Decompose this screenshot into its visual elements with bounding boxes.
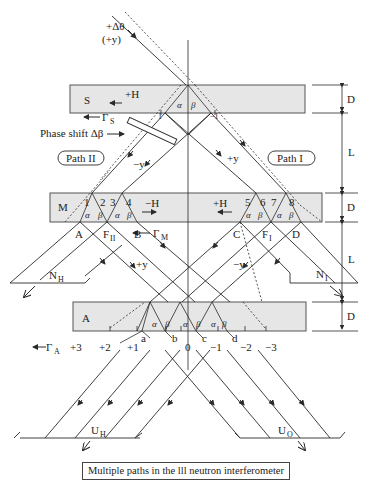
uo-sub: O — [287, 430, 293, 439]
beam-label-f2-sub: II — [110, 234, 116, 243]
minus-y-upper: −y — [133, 158, 145, 170]
order-plus-1: +1 — [127, 341, 139, 353]
ni-label: N — [316, 268, 324, 280]
beam-label-d: D — [292, 228, 300, 240]
order-0: 0 — [185, 341, 191, 353]
dim-l-upper: L — [348, 146, 355, 158]
path-2-label: Path II — [66, 152, 96, 164]
dim-l-lower: L — [348, 253, 355, 265]
beam-label-b: B — [134, 228, 141, 240]
dim-d-s: D — [347, 93, 355, 105]
path-1-label: Path I — [277, 152, 303, 164]
crystal-a — [73, 302, 306, 331]
gamma-a-sub: A — [54, 347, 60, 356]
beam-label-f2: F — [103, 228, 109, 240]
a-alpha-1: α — [152, 319, 157, 329]
mirror-point-5: 5 — [245, 196, 251, 208]
ni-sub: I — [325, 274, 328, 283]
m-alpha-2: α — [115, 210, 120, 220]
order-minus-3: −3 — [265, 341, 277, 353]
plus-y-lower: +y — [136, 258, 148, 270]
s-marker-right: −1 — [210, 112, 219, 121]
interferometer-diagram: +Δθ (+y) S +H Γ S α β 1 −1 Phase shift Δ… — [0, 0, 370, 496]
m-beta-4: β — [288, 210, 294, 220]
a-point-d: d — [232, 332, 238, 344]
figure-caption: Multiple paths in the lll neutron interf… — [82, 462, 290, 480]
phase-shifter — [127, 117, 177, 144]
nh-sub: H — [58, 275, 64, 284]
s-marker-left: 1 — [158, 112, 162, 121]
m-alpha-3: α — [246, 210, 251, 220]
beam-label-f1-sub: I — [269, 234, 272, 243]
dim-d-a: D — [347, 310, 355, 322]
mirror-point-8: 8 — [289, 196, 295, 208]
beam-label-a: A — [75, 228, 83, 240]
m-beta-2: β — [126, 210, 132, 220]
beam-label-f1: F — [262, 228, 268, 240]
gamma-s-sub: S — [110, 117, 114, 126]
uo-label: U — [278, 424, 286, 436]
uh-label: U — [91, 424, 99, 436]
gamma-m-sub: M — [161, 233, 168, 242]
crystal-s-label: S — [84, 94, 90, 106]
order-plus-2: +2 — [99, 341, 111, 353]
beam-label-c: C — [233, 228, 240, 240]
a-alpha-2: α — [183, 319, 188, 329]
crystal-m-label: M — [58, 201, 68, 213]
m-alpha-1: α — [85, 210, 90, 220]
a-alpha-3: α — [211, 319, 216, 329]
crystal-s-field: +H — [125, 88, 139, 100]
mirror-point-1: 1 — [84, 196, 90, 208]
crystal-a-label: A — [82, 312, 90, 324]
m-beta-3: β — [257, 210, 263, 220]
m-alpha-4: α — [277, 210, 282, 220]
order-plus-3: +3 — [70, 341, 82, 353]
a-point-a: a — [141, 332, 146, 344]
crystal-s — [70, 85, 305, 113]
a-beta-1: β — [164, 319, 170, 329]
mirror-point-6: 6 — [260, 196, 266, 208]
gamma-a-label: Γ — [46, 341, 52, 353]
minus-y-lower: −y — [233, 258, 245, 270]
gamma-s-label: Γ — [102, 111, 108, 123]
incident-angle-label: +Δθ — [106, 20, 125, 32]
m-beta-1: β — [97, 210, 103, 220]
dim-d-m: D — [347, 201, 355, 213]
a-point-b: b — [172, 332, 178, 344]
a-beta-2: β — [195, 319, 201, 329]
mirror-point-4: 4 — [126, 196, 132, 208]
a-beta-3: β — [221, 319, 227, 329]
crystal-m-field-left: −H — [145, 197, 159, 209]
plus-y-upper: +y — [227, 152, 239, 164]
s-alpha: α — [177, 100, 182, 110]
a-point-c: c — [202, 332, 207, 344]
order-minus-2: −2 — [240, 341, 252, 353]
crystal-m-field-right: +H — [213, 197, 227, 209]
mirror-point-3: 3 — [110, 196, 116, 208]
uh-sub: H — [100, 430, 106, 439]
mirror-point-2: 2 — [100, 196, 106, 208]
s-beta: β — [190, 100, 196, 110]
gamma-m-label: Γ — [153, 227, 159, 239]
order-minus-1: −1 — [210, 341, 222, 353]
phase-shift-label: Phase shift Δβ — [40, 127, 104, 139]
mirror-point-7: 7 — [271, 196, 277, 208]
incident-direction-label: (+y) — [102, 33, 121, 46]
nh-label: N — [49, 269, 57, 281]
